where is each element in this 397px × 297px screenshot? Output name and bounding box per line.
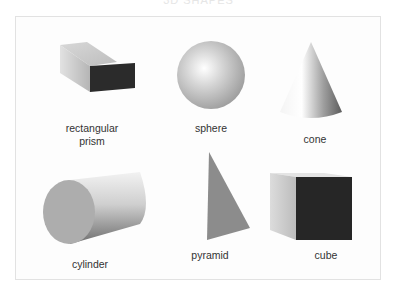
cube-icon [268, 170, 354, 242]
cylinder-label: cylinder [60, 258, 120, 271]
sphere-icon [176, 40, 246, 110]
page-title: 3D SHAPES [0, 0, 397, 6]
rectangular-prism-icon [55, 40, 135, 100]
cone-label: cone [290, 133, 340, 146]
cube-label: cube [301, 249, 351, 262]
pyramid-label: pyramid [180, 249, 240, 262]
pyramid-icon [205, 150, 255, 242]
cone-icon [278, 38, 348, 120]
sphere-label: sphere [176, 122, 246, 135]
cylinder-icon [40, 168, 152, 248]
rectangular-prism-label: rectangular prism [48, 122, 136, 148]
